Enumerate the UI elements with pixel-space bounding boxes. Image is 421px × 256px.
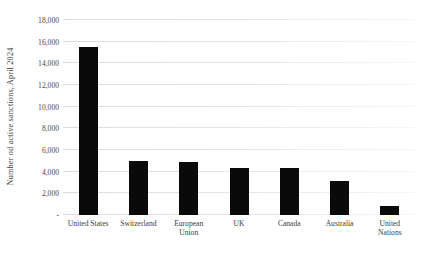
x-axis-category-label-line: United: [380, 219, 401, 228]
x-axis-category-labels: United StatesSwitzerlandEuropeanUnionUKC…: [63, 219, 415, 254]
gridline: [63, 62, 415, 63]
x-axis-category-label-line: Canada: [278, 219, 301, 228]
x-axis-category-label-line: United States: [68, 219, 109, 228]
y-axis-tick-label: 12,000: [21, 81, 59, 90]
x-axis-category-label-line: Australia: [326, 219, 354, 228]
y-axis-tick-label: 14,000: [21, 59, 59, 68]
y-axis-tick-label: 2,000: [21, 189, 59, 198]
y-axis-tick-label: 18,000: [21, 16, 59, 25]
plot-area: [63, 20, 415, 215]
x-axis-category-label: Canada: [261, 219, 317, 228]
gridline: [63, 19, 415, 20]
y-axis-tick-label: 8,000: [21, 124, 59, 133]
y-axis-tick-label: -: [21, 211, 59, 220]
y-axis-title-text: Number od active sanctions, April 2024: [7, 47, 16, 185]
bar: [380, 206, 399, 215]
gridline: [63, 41, 415, 42]
bar: [129, 161, 148, 215]
x-axis-category-label-line: European: [174, 219, 203, 228]
x-axis-category-label: EuropeanUnion: [161, 219, 217, 238]
x-axis-category-label-line: UK: [234, 219, 245, 228]
bar-chart: Number od active sanctions, April 2024 -…: [0, 0, 421, 256]
x-axis-category-label-line: Switzerland: [120, 219, 156, 228]
y-axis-tick-label: 6,000: [21, 146, 59, 155]
bar: [79, 47, 98, 215]
x-axis-category-label-line: Union: [161, 228, 217, 237]
bar: [230, 168, 249, 215]
bar: [179, 162, 198, 215]
x-axis-category-label: UnitedNations: [362, 219, 418, 238]
bar: [330, 181, 349, 215]
x-axis-category-label: United States: [60, 219, 116, 228]
y-axis-tick-labels: -2,0004,0006,0008,00010,00012,00014,0001…: [19, 20, 59, 215]
y-axis-tick-label: 4,000: [21, 167, 59, 176]
gridline: [63, 106, 415, 107]
gridline: [63, 127, 415, 128]
y-axis-tick-label: 10,000: [21, 102, 59, 111]
bar: [280, 168, 299, 215]
x-axis-category-label: Switzerland: [110, 219, 166, 228]
x-axis-category-label-line: Nations: [362, 228, 418, 237]
gridline: [63, 149, 415, 150]
y-axis-tick-label: 16,000: [21, 37, 59, 46]
x-axis-category-label: Australia: [312, 219, 368, 228]
x-axis-category-label: UK: [211, 219, 267, 228]
gridline: [63, 84, 415, 85]
